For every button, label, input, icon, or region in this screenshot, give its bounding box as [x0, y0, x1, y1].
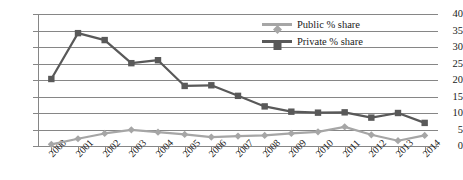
legend-swatch-private	[262, 35, 292, 47]
chart-legend: Public % share Private % share	[262, 17, 382, 51]
square-marker-icon	[273, 37, 282, 55]
line-chart: 0510152025303540 20002001200220032004200…	[0, 0, 463, 180]
y-axis-tick-label: 40	[437, 9, 463, 20]
y-axis-tick-mark	[33, 14, 38, 15]
y-axis-tick-mark	[33, 113, 38, 114]
y-axis-tick-label: 15	[437, 92, 463, 103]
y-axis-line	[38, 14, 39, 147]
y-axis-tick-mark	[33, 146, 38, 147]
gridline	[38, 80, 438, 81]
y-axis-tick-mark	[33, 64, 38, 65]
legend-swatch-public	[262, 18, 292, 30]
gridline	[38, 113, 438, 114]
y-axis-tick-mark	[33, 130, 38, 131]
y-axis-tick-mark	[33, 80, 38, 81]
y-axis-tick-label: 5	[437, 125, 463, 136]
legend-label-public: Public % share	[297, 19, 360, 30]
y-axis-tick-label: 35	[437, 26, 463, 37]
legend-item-public: Public % share	[262, 17, 360, 31]
y-axis-tick-mark	[33, 47, 38, 48]
y-axis-tick-label: 25	[437, 59, 463, 70]
y-axis-tick-label: 10	[437, 108, 463, 119]
gridline	[38, 130, 438, 131]
y-axis-tick-mark	[33, 97, 38, 98]
y-axis-tick-label: 30	[437, 42, 463, 53]
gridline	[38, 64, 438, 65]
legend-label-private: Private % share	[297, 36, 363, 47]
y-axis-tick-label: 20	[437, 75, 463, 86]
gridline	[38, 97, 438, 98]
gridline	[38, 14, 438, 15]
y-axis-tick-mark	[33, 31, 38, 32]
legend-item-private: Private % share	[262, 34, 363, 48]
